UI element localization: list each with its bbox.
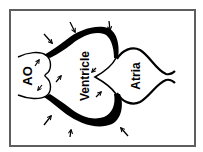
- atria-label: Atria: [129, 62, 143, 90]
- arrow-icon: [96, 92, 101, 97]
- arrow-icon: [70, 22, 75, 32]
- arrow-icon: [92, 68, 96, 72]
- heart-diagram: AO Ventricle Atria: [0, 0, 203, 152]
- arrow-icon: [121, 128, 128, 136]
- arrow-icon: [35, 60, 39, 66]
- ventricle-cavity: [95, 58, 116, 94]
- arrow-icon: [56, 76, 61, 82]
- arrow-icon: [70, 130, 71, 137]
- arrow-icon: [44, 34, 52, 43]
- aorta-label: AO: [20, 66, 35, 86]
- arrow-icon: [38, 85, 42, 90]
- ventricle-label: Ventricle: [78, 51, 92, 101]
- arrow-icon: [44, 116, 51, 125]
- atria-shape: [117, 48, 175, 103]
